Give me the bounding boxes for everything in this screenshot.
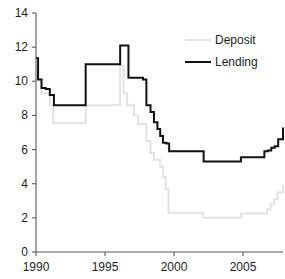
- legend-label-lending: Lending: [215, 55, 258, 69]
- y-tick-label: 4: [21, 177, 28, 191]
- y-tick-label: 6: [21, 143, 28, 157]
- chart-legend: DepositLending: [185, 33, 258, 69]
- series-layer: [36, 45, 283, 217]
- y-tick-label: 12: [15, 40, 29, 54]
- y-tick-label: 0: [21, 245, 28, 259]
- x-axis-ticks: 1990199520002005: [23, 252, 257, 274]
- y-tick-label: 2: [21, 211, 28, 225]
- y-axis-ticks: 02468101214: [15, 6, 36, 259]
- legend-label-deposit: Deposit: [215, 33, 256, 47]
- x-tick-label: 2000: [161, 260, 188, 274]
- chart-canvas: 02468101214 1990199520002005 DepositLend…: [0, 0, 285, 279]
- x-tick-label: 1990: [23, 260, 50, 274]
- interest-rate-chart: 02468101214 1990199520002005 DepositLend…: [0, 0, 285, 279]
- y-tick-label: 8: [21, 108, 28, 122]
- x-tick-label: 1995: [92, 260, 119, 274]
- series-line-deposit: [36, 59, 283, 218]
- y-tick-label: 10: [15, 74, 29, 88]
- x-tick-label: 2005: [230, 260, 257, 274]
- y-tick-label: 14: [15, 6, 29, 20]
